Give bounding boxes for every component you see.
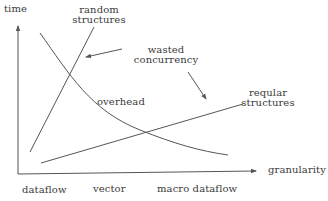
wasted-concurrency-arrow-regular: [188, 72, 206, 99]
random-structures-label-line2: structures: [66, 15, 132, 25]
wasted-concurrency-arrow-random: [86, 49, 122, 57]
granularity-tradeoff-diagram: time granularity dataflow vector macro d…: [0, 0, 328, 201]
random-structures-label: random structures: [66, 5, 132, 25]
regular-structures-line: [41, 104, 243, 163]
x-axis: [18, 171, 256, 174]
x-axis-label: granularity: [268, 165, 326, 175]
random-structures-line: [30, 27, 94, 152]
regular-structures-label-line2: structures: [238, 98, 298, 108]
regular-structures-label: reqular structures: [238, 88, 298, 108]
x-tick-dataflow: dataflow: [22, 185, 67, 195]
x-tick-macro-dataflow: macro dataflow: [157, 184, 237, 194]
overhead-label: overhead: [97, 97, 145, 107]
y-axis-label: time: [4, 4, 27, 14]
x-tick-vector: vector: [93, 184, 126, 194]
wasted-concurrency-label: wasted concurrency: [126, 45, 206, 65]
wasted-concurrency-label-line2: concurrency: [126, 55, 206, 65]
